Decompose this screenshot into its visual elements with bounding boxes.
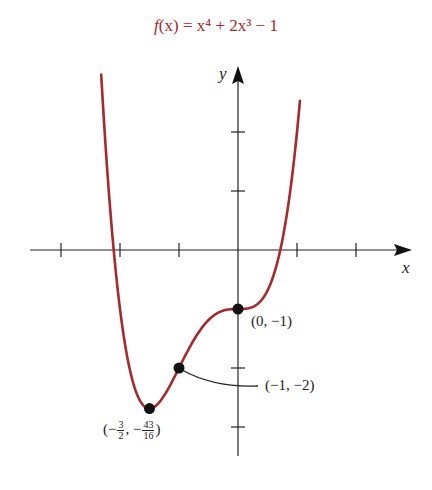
x-axis-label: x <box>402 258 410 278</box>
point-marker <box>233 304 244 315</box>
point-label-0-neg1: (0, −1) <box>251 313 292 330</box>
frac-den: 16 <box>142 431 154 441</box>
y-axis-label: y <box>219 64 227 84</box>
marked-points <box>144 304 244 415</box>
min-label-open: (− <box>103 421 116 437</box>
fraction-3-2: 32 <box>117 420 124 441</box>
point-marker <box>144 403 155 414</box>
frac-den: 2 <box>117 431 124 441</box>
leader-line <box>182 370 258 386</box>
plot-area <box>0 0 432 490</box>
point-marker <box>174 363 185 374</box>
min-label-mid: , − <box>125 421 141 437</box>
fraction-43-16: 4316 <box>142 420 154 441</box>
point-label-minimum: (−32, −4316) <box>103 420 160 441</box>
min-label-close: ) <box>155 421 160 437</box>
function-curve <box>101 75 300 409</box>
point-label-neg1-neg2: (−1, −2) <box>265 377 314 394</box>
